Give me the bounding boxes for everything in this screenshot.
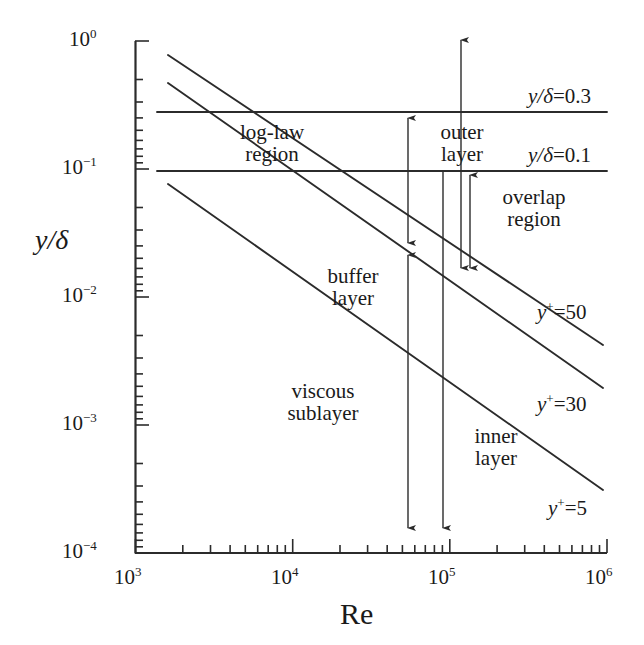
y-axis-title: y/δ [35, 225, 68, 254]
region-label-buffer-layer-line2: layer [306, 287, 400, 309]
y-tick-label-1e0: 100 [69, 27, 97, 50]
region-label-viscous-sublayer: viscous sublayer [258, 380, 388, 424]
region-label-outer-layer: outer layer [416, 121, 508, 165]
figure-canvas: 100 10−1 10−2 10−3 10−4 103 104 105 106 … [0, 0, 644, 645]
region-label-viscous-sublayer-line1: viscous [258, 380, 388, 402]
region-label-buffer-layer: buffer layer [306, 265, 400, 309]
curve-label-yplus-5: y+=5 [548, 496, 587, 519]
y-tick-label-1e-4: 10−4 [62, 539, 97, 562]
region-label-overlap-region-line1: overlap [480, 186, 588, 208]
x-tick-label-1e6: 106 [585, 565, 613, 588]
region-label-log-law: log-law region [213, 121, 331, 165]
region-label-viscous-sublayer-line2: sublayer [258, 402, 388, 424]
y-tick-label-1e-2: 10−2 [62, 283, 97, 306]
x-tick-label-1e3: 103 [114, 565, 142, 588]
curve-label-ydelta-03: y/δ=0.3 [528, 85, 591, 107]
region-label-overlap-region-line2: region [480, 208, 588, 230]
curve-label-yplus-30: y+=30 [537, 392, 587, 415]
y-tick-label-1e-1: 10−1 [62, 155, 97, 178]
y-tick-label-1e-3: 10−3 [62, 411, 97, 434]
region-label-log-law-line1: log-law [213, 121, 331, 143]
region-label-log-law-line2: region [213, 143, 331, 165]
x-tick-label-1e5: 105 [428, 565, 456, 588]
region-label-outer-layer-line1: outer [416, 121, 508, 143]
region-label-overlap-region: overlap region [480, 186, 588, 230]
x-axis-ticks [136, 539, 608, 553]
x-tick-label-1e4: 104 [271, 565, 299, 588]
curve-label-ydelta-01: y/δ=0.1 [528, 144, 591, 166]
region-label-buffer-layer-line1: buffer [306, 265, 400, 287]
curve-label-yplus-50: y+=50 [537, 300, 587, 323]
y-axis-ticks [135, 41, 149, 553]
region-label-inner-layer-line1: inner [452, 425, 540, 447]
region-label-inner-layer: inner layer [452, 425, 540, 469]
x-axis-title: Re [340, 598, 373, 630]
region-label-outer-layer-line2: layer [416, 143, 508, 165]
region-label-inner-layer-line2: layer [452, 447, 540, 469]
